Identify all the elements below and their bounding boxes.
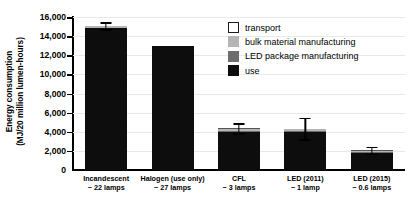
y-tick-label: 10,000 (24, 69, 66, 79)
y-tick-mark (67, 132, 72, 134)
legend-swatch (228, 65, 239, 76)
y-tick-label: 4,000 (24, 127, 66, 137)
y-tick-mark (67, 17, 72, 19)
y-tick-label: 14,000 (24, 31, 66, 41)
legend-swatch (228, 36, 239, 47)
x-tick-label-lamps: ~ 1 lamp (272, 183, 338, 192)
error-bar-stem (238, 123, 239, 133)
legend-label: transport (245, 23, 281, 33)
y-tick-mark (67, 36, 72, 38)
x-tick-label: CFL~ 3 lamps (206, 174, 272, 193)
x-tick-label-lamps: ~ 22 lamps (73, 183, 139, 192)
legend-label: LED package manufacturing (245, 51, 359, 61)
legend-item[interactable]: use (228, 65, 359, 76)
chart-figure: Energy consumption (MJ/20 million lumen-… (0, 0, 413, 212)
gridline (73, 17, 405, 18)
y-tick-label: 0 (24, 165, 66, 175)
y-tick-label: 6,000 (24, 108, 66, 118)
legend-swatch (228, 51, 239, 62)
error-bar-cap-upper (366, 147, 377, 148)
x-tick-label-name: Halogen (use only) (139, 174, 205, 183)
error-bar-cap-lower (234, 133, 245, 134)
bar-segment (85, 28, 127, 170)
x-tick-label: LED (2011)~ 1 lamp (272, 174, 338, 193)
y-tick-mark (67, 74, 72, 76)
x-tick-label-lamps: ~ 27 lamps (139, 183, 205, 192)
x-tick-label-name: Incandescent (73, 174, 139, 183)
bar-segment (152, 46, 194, 170)
x-tick-label: Halogen (use only)~ 27 lamps (139, 174, 205, 193)
x-tick-label-lamps: ~ 3 lamps (206, 183, 272, 192)
y-tick-mark (67, 151, 72, 153)
legend-item[interactable]: bulk material manufacturing (228, 36, 359, 47)
error-bar-cap-lower (101, 29, 112, 30)
y-tick-mark (67, 113, 72, 115)
y-tick-mark (67, 94, 72, 96)
bar-segment (351, 153, 393, 170)
x-tick-label-lamps: ~ 0.6 lamps (339, 183, 405, 192)
legend-swatch (228, 22, 239, 33)
x-tick-label-name: LED (2011) (272, 174, 338, 183)
y-tick-label: 16,000 (24, 12, 66, 22)
y-axis-tick-labels: 02,0004,0006,0008,00010,00012,00014,0001… (20, 0, 66, 212)
y-tick-mark (67, 55, 72, 57)
x-tick-label-name: LED (2015) (339, 174, 405, 183)
error-bar-cap-upper (101, 22, 112, 23)
x-tick-label-name: CFL (206, 174, 272, 183)
error-bar-cap-lower (366, 154, 377, 155)
chart-legend: transportbulk material manufacturingLED … (228, 22, 359, 76)
legend-item[interactable]: LED package manufacturing (228, 51, 359, 62)
legend-label: use (245, 66, 260, 76)
bar-group[interactable] (152, 46, 194, 170)
y-tick-label: 2,000 (24, 146, 66, 156)
error-bar-stem (305, 118, 306, 139)
legend-label: bulk material manufacturing (245, 37, 356, 47)
legend-item[interactable]: transport (228, 22, 359, 33)
x-tick-label: Incandescent~ 22 lamps (73, 174, 139, 193)
x-tick-label: LED (2015)~ 0.6 lamps (339, 174, 405, 193)
error-bar-cap-upper (234, 123, 245, 124)
y-tick-label: 8,000 (24, 89, 66, 99)
error-bar-cap-upper (300, 118, 311, 119)
bar-group[interactable] (85, 26, 127, 170)
y-tick-label: 12,000 (24, 50, 66, 60)
error-bar-cap-lower (300, 139, 311, 140)
bar-segment (218, 132, 260, 170)
y-axis-title-line1: Energy consumption (5, 37, 16, 146)
